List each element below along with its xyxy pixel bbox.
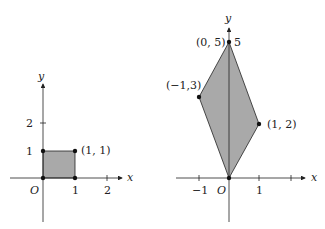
x-axis-label: x bbox=[311, 171, 318, 184]
y-tick-label-2: 2 bbox=[26, 117, 33, 130]
origin-label: O bbox=[217, 184, 226, 197]
point-label-0-5: (0, 5) bbox=[196, 36, 226, 49]
point-0-5 bbox=[227, 40, 231, 44]
x-tick-label-1: 1 bbox=[72, 184, 79, 197]
point-1-0 bbox=[73, 176, 77, 180]
x-axis-label: x bbox=[127, 171, 134, 184]
unit-square bbox=[43, 151, 75, 178]
x-tick-label-neg1: −1 bbox=[192, 184, 208, 197]
point-label-1-2: (1, 2) bbox=[267, 118, 297, 131]
y-axis-label: y bbox=[224, 12, 232, 25]
point-origin bbox=[227, 176, 231, 180]
figure: y x O 1 2 1 2 (1, 1) y x O −1 1 5 (0, 5)… bbox=[0, 0, 325, 229]
y-tick-label-5: 5 bbox=[234, 36, 241, 49]
point-origin bbox=[41, 176, 45, 180]
point-1-1 bbox=[73, 149, 77, 153]
origin-label: O bbox=[30, 184, 39, 197]
x-tick-label-1: 1 bbox=[256, 184, 263, 197]
point-label-1-1: (1, 1) bbox=[81, 144, 111, 157]
left-graph: y x O 1 2 1 2 (1, 1) bbox=[10, 70, 134, 222]
point-0-1 bbox=[41, 149, 45, 153]
point-label-neg1-3: (−1,3) bbox=[166, 79, 201, 92]
y-tick-label-1: 1 bbox=[26, 145, 33, 158]
right-graph: y x O −1 1 5 (0, 5) (−1,3) (1, 2) bbox=[166, 12, 318, 222]
point-neg1-3 bbox=[197, 95, 201, 99]
point-1-2 bbox=[257, 122, 261, 126]
y-axis-label: y bbox=[37, 70, 45, 83]
x-tick-label-2: 2 bbox=[104, 184, 111, 197]
